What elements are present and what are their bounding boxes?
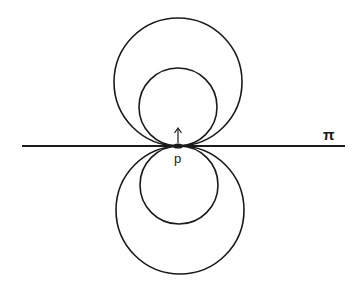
diagram-canvas: p π [0,0,364,295]
tangency-point [173,143,183,148]
normal-arrow-icon [175,128,182,143]
plane-label: π [323,126,335,143]
point-label: p [174,151,181,166]
upper-large-circle [114,18,242,146]
